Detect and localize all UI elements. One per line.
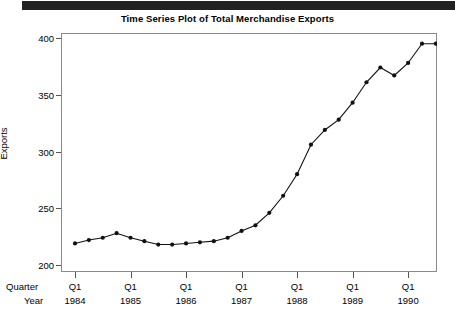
x-tick-label-year: 1985 [120, 295, 141, 306]
x-tick-label-year: 1990 [398, 295, 419, 306]
x-tick-label-quarter: Q1 [402, 281, 415, 292]
x-tick-mark [297, 272, 298, 278]
series-line [75, 44, 436, 245]
x-tick-mark [353, 272, 354, 278]
y-tick-label: 250 [14, 203, 54, 214]
x-tick-label-quarter: Q1 [291, 281, 304, 292]
series-point [323, 128, 327, 132]
series-point [351, 101, 355, 105]
series-point [295, 172, 299, 176]
series-point [115, 231, 119, 235]
series-point [184, 241, 188, 245]
y-tick-mark [56, 208, 61, 209]
series-point [239, 229, 243, 233]
x-tick-mark [186, 272, 187, 278]
series-point [73, 241, 77, 245]
series-point [156, 242, 160, 246]
x-tick-mark [131, 272, 132, 278]
x-tick-label-year: 1987 [231, 295, 252, 306]
y-axis-title: Exports [0, 127, 9, 159]
series-point [309, 143, 313, 147]
y-tick-mark [56, 95, 61, 96]
series-point [406, 61, 410, 65]
x-tick-mark [408, 272, 409, 278]
y-tick-label: 350 [14, 89, 54, 100]
x-tick-label-year: 1984 [64, 295, 85, 306]
series-point [378, 65, 382, 69]
series-point [101, 236, 105, 240]
series-point [392, 73, 396, 77]
y-tick-label: 400 [14, 33, 54, 44]
series-point [364, 80, 368, 84]
chart-figure: Time Series Plot of Total Merchandise Ex… [0, 0, 455, 321]
series-point [142, 239, 146, 243]
series-plot [61, 33, 437, 272]
x-tick-label-quarter: Q1 [69, 281, 82, 292]
chart-title: Time Series Plot of Total Merchandise Ex… [0, 13, 455, 24]
x-tick-label-quarter: Q1 [180, 281, 193, 292]
series-point [434, 42, 437, 46]
x-tick-label-year: 1988 [287, 295, 308, 306]
series-point [267, 211, 271, 215]
series-point [420, 42, 424, 46]
series-point [253, 223, 257, 227]
series-point [337, 118, 341, 122]
x-tick-mark [242, 272, 243, 278]
series-point [281, 194, 285, 198]
x-tick-label-quarter: Q1 [346, 281, 359, 292]
x-tick-label-year: 1989 [342, 295, 363, 306]
series-point [212, 239, 216, 243]
series-point [87, 238, 91, 242]
y-tick-mark [56, 265, 61, 266]
y-tick-mark [56, 152, 61, 153]
y-tick-mark [56, 38, 61, 39]
x-axis-row-label-quarter: Quarter [6, 281, 38, 292]
x-tick-label-quarter: Q1 [124, 281, 137, 292]
series-markers [73, 42, 437, 247]
y-tick-label: 200 [14, 260, 54, 271]
x-tick-label-quarter: Q1 [235, 281, 248, 292]
series-point [226, 236, 230, 240]
x-tick-mark [75, 272, 76, 278]
x-tick-label-year: 1986 [175, 295, 196, 306]
series-point [170, 242, 174, 246]
series-point [128, 236, 132, 240]
x-axis-row-label-year: Year [24, 295, 43, 306]
series-point [198, 240, 202, 244]
y-tick-label: 300 [14, 146, 54, 157]
